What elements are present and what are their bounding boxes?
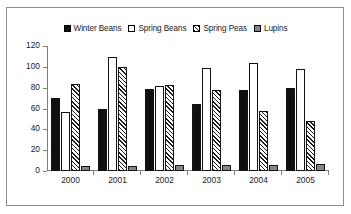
legend-item-label: Lupins <box>264 24 288 33</box>
y-axis-tick: 20 <box>17 150 47 151</box>
bar[interactable] <box>155 86 164 171</box>
legend-item-label: Spring Peas <box>203 24 247 33</box>
y-axis-tick: 60 <box>17 109 47 110</box>
bar[interactable] <box>175 165 184 171</box>
bar[interactable] <box>222 165 231 171</box>
x-axis-label: 2002 <box>141 175 188 185</box>
chart-figure: Winter BeansSpring BeansSpring PeasLupin… <box>0 0 351 214</box>
legend-item[interactable]: Spring Beans <box>128 24 186 33</box>
legend-item-label: Spring Beans <box>138 24 186 33</box>
bar-group <box>141 46 188 171</box>
legend-item-label: Winter Beans <box>74 24 122 33</box>
bar[interactable] <box>202 68 211 171</box>
y-axis-tick-label: 60 <box>31 103 40 113</box>
y-axis-tick: 0 <box>17 171 47 172</box>
bar[interactable] <box>259 111 268 171</box>
bar-group <box>47 46 94 171</box>
legend-item[interactable]: Lupins <box>254 24 288 33</box>
y-axis-tick: 40 <box>17 129 47 130</box>
bar[interactable] <box>249 63 258 171</box>
legend-swatch-icon <box>64 25 71 32</box>
bar[interactable] <box>212 90 221 171</box>
bar[interactable] <box>145 89 154 171</box>
y-axis-tick: 80 <box>17 88 47 89</box>
bar[interactable] <box>81 166 90 171</box>
y-axis-tick: 120 <box>17 46 47 47</box>
legend-item[interactable]: Spring Peas <box>193 24 247 33</box>
legend-swatch-icon <box>254 25 261 32</box>
x-axis-label: 2003 <box>188 175 235 185</box>
bar[interactable] <box>316 164 325 171</box>
bar[interactable] <box>108 57 117 171</box>
legend-item[interactable]: Winter Beans <box>64 24 122 33</box>
x-axis-labels: 200020012002200320042005 <box>47 175 329 185</box>
x-axis-label: 2004 <box>235 175 282 185</box>
bar[interactable] <box>118 67 127 171</box>
y-axis-tick-label: 0 <box>35 165 40 175</box>
bar[interactable] <box>269 165 278 171</box>
y-axis-tick-label: 80 <box>31 82 40 92</box>
bar-group <box>282 46 329 171</box>
bar[interactable] <box>239 90 248 171</box>
y-axis-tick-label: 120 <box>26 40 40 50</box>
bar[interactable] <box>306 121 315 171</box>
y-axis-tick-label: 100 <box>26 61 40 71</box>
bar-groups <box>47 46 329 171</box>
bar[interactable] <box>71 84 80 172</box>
legend-swatch-icon <box>193 25 200 32</box>
bar[interactable] <box>98 109 107 172</box>
y-axis-tick-label: 40 <box>31 123 40 133</box>
y-axis-tick-label: 20 <box>31 144 40 154</box>
x-axis-label: 2001 <box>94 175 141 185</box>
legend-swatch-icon <box>128 25 135 32</box>
bar[interactable] <box>61 112 70 171</box>
chart-legend: Winter BeansSpring BeansSpring PeasLupin… <box>0 22 351 34</box>
bar[interactable] <box>128 166 137 171</box>
bar-group <box>235 46 282 171</box>
x-axis-label: 2000 <box>47 175 94 185</box>
bar[interactable] <box>286 88 295 171</box>
y-axis-tick-mark <box>43 171 47 172</box>
bar-group <box>188 46 235 171</box>
bar-group <box>94 46 141 171</box>
plot-area: 020406080100120 <box>47 46 329 171</box>
bar[interactable] <box>51 98 60 171</box>
y-axis-tick: 100 <box>17 67 47 68</box>
bar[interactable] <box>192 104 201 171</box>
bar[interactable] <box>296 69 305 171</box>
bar[interactable] <box>165 85 174 171</box>
x-axis-label: 2005 <box>282 175 329 185</box>
